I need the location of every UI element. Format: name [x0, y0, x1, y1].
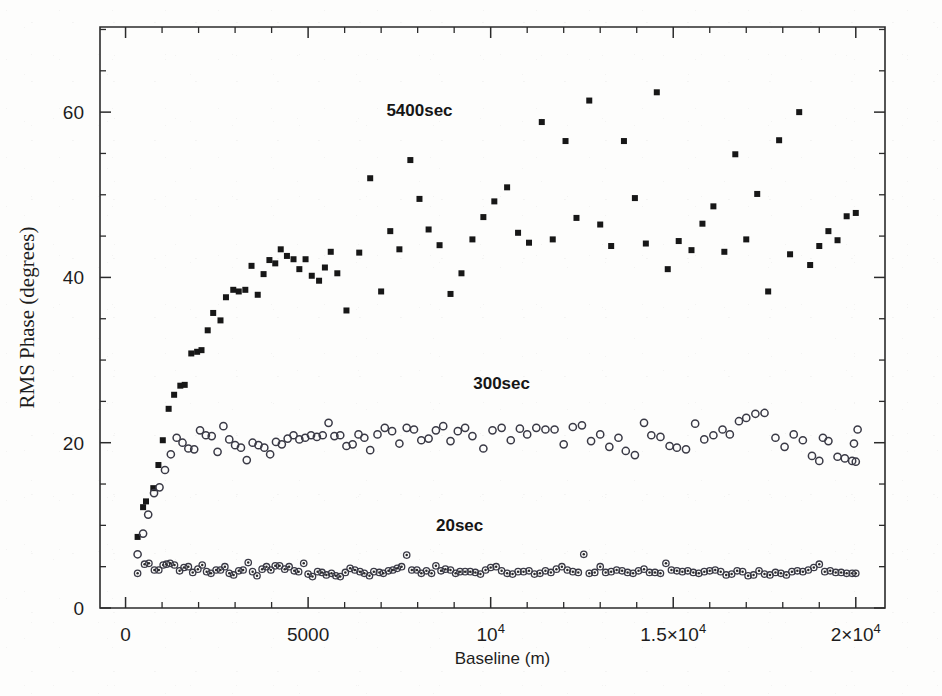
point-marker-core — [311, 575, 314, 578]
point-marker — [648, 432, 655, 439]
point-marker — [507, 437, 514, 444]
point-marker — [726, 431, 733, 438]
point-marker-core — [813, 566, 816, 569]
point-marker — [418, 437, 425, 444]
series-20sec — [134, 551, 859, 580]
point-marker-core — [283, 568, 286, 571]
point-marker — [425, 435, 432, 442]
point-marker-core — [555, 568, 558, 571]
point-marker-core — [791, 570, 794, 573]
y-axis-title: RMS Phase (degrees) — [15, 227, 39, 409]
x-tick-label-1: 5000 — [287, 624, 329, 645]
point-marker-core — [818, 563, 821, 566]
point-marker-core — [500, 570, 503, 573]
point-marker-core — [256, 575, 259, 578]
point-marker-core — [449, 569, 452, 572]
point-marker — [243, 456, 250, 463]
point-marker-core — [425, 570, 428, 573]
point-marker-core — [247, 561, 250, 564]
point-marker-core — [676, 570, 679, 573]
point-marker — [560, 441, 567, 448]
point-marker-core — [307, 573, 310, 576]
point-marker — [188, 350, 194, 356]
point-marker — [160, 437, 166, 443]
point-marker — [515, 230, 521, 236]
point-marker-core — [763, 573, 766, 576]
point-marker-core — [829, 570, 832, 573]
point-marker-core — [339, 575, 342, 578]
point-marker-core — [517, 570, 520, 573]
point-marker — [761, 409, 768, 416]
point-marker — [692, 420, 699, 427]
point-marker — [145, 511, 152, 518]
point-marker — [654, 89, 660, 95]
point-marker — [381, 424, 388, 431]
point-marker-core — [681, 570, 684, 573]
point-marker — [533, 424, 540, 431]
point-marker — [640, 419, 647, 426]
point-marker — [322, 264, 328, 270]
point-marker-core — [796, 570, 799, 573]
point-marker — [407, 157, 413, 163]
point-marker — [210, 310, 216, 316]
point-marker — [825, 228, 831, 234]
point-marker — [171, 392, 177, 398]
point-marker — [710, 432, 717, 439]
point-marker — [343, 307, 349, 313]
point-marker-core — [251, 570, 254, 573]
point-marker — [563, 138, 569, 144]
point-marker-core — [405, 554, 408, 557]
point-marker — [850, 440, 857, 447]
point-marker-core — [158, 569, 161, 572]
point-marker-core — [373, 570, 376, 573]
point-marker — [816, 457, 823, 464]
point-marker — [676, 238, 682, 244]
point-marker — [516, 425, 523, 432]
point-marker — [396, 440, 403, 447]
point-marker — [632, 195, 638, 201]
point-marker-core — [533, 573, 536, 576]
point-marker-core — [577, 571, 580, 574]
point-marker — [608, 243, 614, 249]
point-marker-core — [416, 569, 419, 572]
point-marker-core — [528, 570, 531, 573]
point-marker — [143, 498, 149, 504]
point-marker — [834, 453, 841, 460]
point-marker — [539, 119, 545, 125]
point-marker-core — [698, 572, 701, 575]
point-marker — [267, 451, 274, 458]
point-marker — [754, 191, 760, 197]
point-marker — [787, 251, 793, 257]
point-marker — [223, 294, 229, 300]
point-marker-core — [604, 571, 607, 574]
point-marker-core — [708, 570, 711, 573]
point-marker-core — [349, 567, 352, 570]
point-marker — [134, 551, 141, 558]
point-marker-core — [242, 569, 245, 572]
point-marker — [374, 431, 381, 438]
point-marker-core — [420, 572, 423, 575]
point-marker — [214, 448, 221, 455]
point-marker-core — [136, 572, 139, 575]
point-marker — [498, 424, 505, 431]
point-marker — [447, 437, 454, 444]
point-marker-core — [288, 565, 291, 568]
point-marker — [701, 436, 708, 443]
point-marker — [272, 260, 278, 266]
point-marker — [440, 423, 447, 430]
point-marker — [156, 484, 163, 491]
point-marker — [682, 446, 689, 453]
point-marker — [550, 236, 556, 242]
point-marker — [437, 242, 443, 248]
point-marker-core — [774, 571, 777, 574]
point-marker — [230, 287, 236, 293]
point-marker-core — [665, 562, 668, 565]
point-marker-core — [435, 565, 438, 568]
point-marker-core — [769, 574, 772, 577]
y-tick-label-3: 60 — [63, 102, 84, 123]
point-marker — [416, 196, 422, 202]
point-marker — [710, 203, 716, 209]
point-marker — [781, 443, 788, 450]
point-marker-core — [495, 565, 498, 568]
series-300sec — [134, 409, 861, 558]
